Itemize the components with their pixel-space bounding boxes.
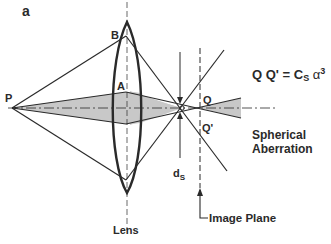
aberration-formula: Q Q' = CS α3 xyxy=(252,66,325,83)
formula-alpha-sup: 3 xyxy=(320,66,325,76)
point-Q-label: Q xyxy=(203,94,212,106)
point-P-label: P xyxy=(5,92,12,104)
ds-sub: S xyxy=(180,173,185,182)
spherical-aberration-diagram xyxy=(0,0,331,244)
lens-label: Lens xyxy=(113,224,139,236)
image-plane-arrow-icon xyxy=(197,188,203,196)
image-plane-label: Image Plane xyxy=(209,212,276,224)
point-B-label: B xyxy=(111,29,119,41)
formula-equals: = xyxy=(283,67,291,82)
panel-label: a xyxy=(22,3,30,19)
spherical-aberration-line2: Aberration xyxy=(252,142,313,156)
ds-arrow-bottom-icon xyxy=(177,112,183,119)
ds-arrow-top-icon xyxy=(177,97,183,104)
point-Q-prime-label: Q' xyxy=(202,122,213,134)
spherical-aberration-label: Spherical Aberration xyxy=(252,128,313,156)
formula-lhs: Q Q' xyxy=(252,67,279,82)
formula-C: C xyxy=(294,67,303,82)
formula-C-sub: S xyxy=(303,73,309,83)
point-A-label: A xyxy=(117,80,125,92)
spherical-aberration-line1: Spherical xyxy=(252,128,313,142)
ds-main: d xyxy=(173,167,180,179)
ds-label: dS xyxy=(173,167,185,182)
